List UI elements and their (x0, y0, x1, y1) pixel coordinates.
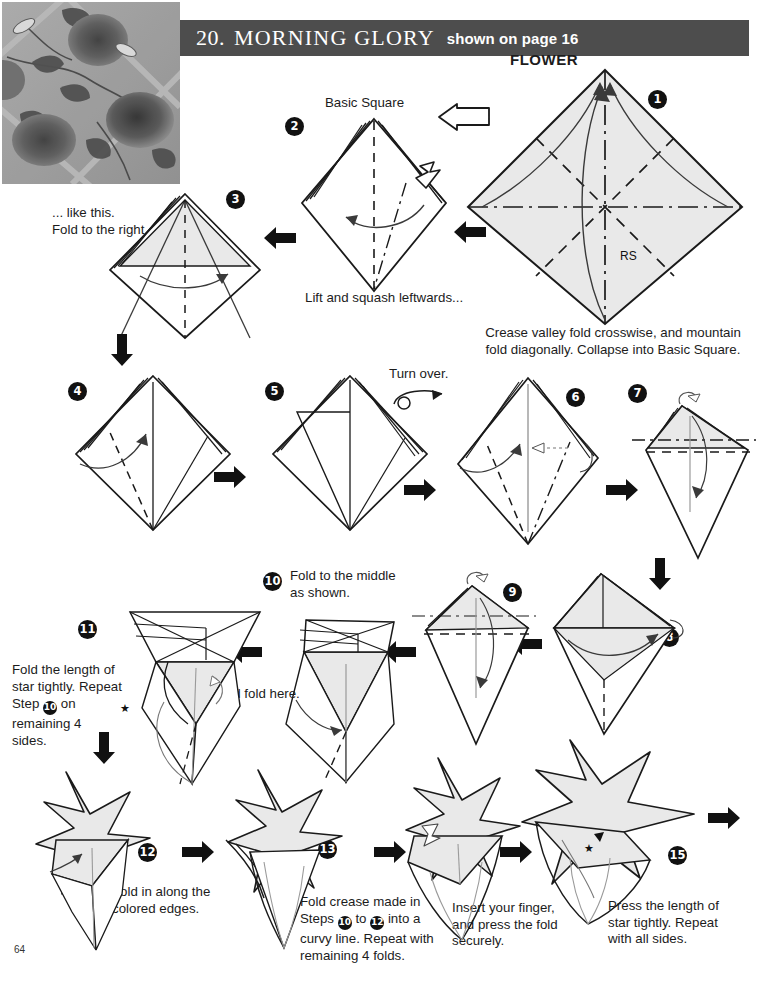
step-10-badge: 10 (263, 572, 282, 591)
flower-label: FLOWER (510, 52, 578, 69)
header-number: 20. (196, 25, 225, 51)
hollow-push-arrow-2 (412, 158, 444, 198)
morning-glory-photo (2, 2, 180, 184)
inline-step-10-badge: 10 (43, 701, 57, 715)
step-11-line-5: remaining 4 (12, 716, 81, 731)
step-6-diagram (440, 372, 620, 556)
arrow-right-15-next (706, 806, 742, 834)
page-number: 64 (14, 944, 25, 955)
step-7-diagram (630, 392, 760, 566)
step-1-caption: Crease valley fold crosswise, and mounta… (482, 325, 744, 358)
basic-square-label: Basic Square (325, 95, 404, 112)
header-subtitle: shown on page 16 (447, 30, 579, 47)
step-12-diagram (26, 762, 166, 956)
step-1-badge: 1 (648, 90, 667, 109)
step-11-line-6: sides. (12, 733, 47, 748)
star-marker-11: ★ (120, 702, 130, 714)
step-13-diagram (206, 762, 356, 956)
star-marker-15: ★ (584, 842, 594, 854)
arrow-right-5to6 (402, 478, 438, 506)
step-2-diagram (296, 113, 456, 307)
step-11-badge: 11 (78, 620, 97, 639)
page-title: MORNING GLORY (234, 25, 435, 51)
step-15-diagram: ★ (516, 736, 706, 930)
arrow-down-3to4 (110, 332, 134, 372)
step-11-line-3: Step (12, 696, 43, 711)
rs-label: RS (620, 249, 637, 263)
step-11-line-2: star tightly. Repeat (12, 679, 122, 694)
arrow-left-1to2 (452, 220, 488, 248)
step-11-line-1: Fold the length of (12, 662, 115, 677)
step-8-diagram (546, 568, 696, 742)
step-3-diagram (100, 190, 270, 344)
step-2-caption: Lift and squash leftwards... (305, 290, 463, 307)
step-4-diagram (58, 372, 238, 536)
arrow-right-4to5 (212, 465, 248, 493)
photo-graphic (2, 2, 180, 184)
step-11-line-4: on (57, 696, 76, 711)
step-1-diagram: RS (460, 62, 750, 336)
step-9-diagram (410, 572, 540, 756)
page-header-bar: 20. MORNING GLORY shown on page 16 (180, 20, 749, 56)
step-10-caption: Fold to the middle as shown. (290, 568, 396, 601)
